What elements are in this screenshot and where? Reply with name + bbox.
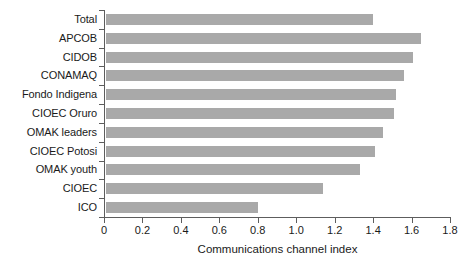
x-axis-tick: [450, 218, 451, 223]
y-axis-tick: [99, 179, 104, 180]
y-axis-tick-label: Total: [0, 10, 97, 29]
bar-row: [104, 104, 450, 123]
x-axis-tick: [335, 218, 336, 223]
x-axis-tick: [142, 218, 143, 223]
y-axis-tick: [99, 10, 104, 11]
x-axis-tick-label: 1.0: [289, 225, 304, 236]
bar-row: [104, 179, 450, 198]
y-axis-tick: [99, 123, 104, 124]
bar-row: [104, 66, 450, 85]
x-axis-tick-label: 0.8: [250, 225, 265, 236]
bar: [106, 127, 383, 138]
y-axis-tick: [99, 142, 104, 143]
y-axis-tick: [99, 85, 104, 86]
y-axis-tick: [99, 48, 104, 49]
x-axis-line: [104, 217, 451, 218]
y-axis-tick-label: ICO: [0, 198, 97, 217]
x-axis-tick: [219, 218, 220, 223]
bar-row: [104, 123, 450, 142]
y-axis-tick-label: CIOEC Potosi: [0, 142, 97, 161]
x-axis-tick-label: 1.4: [365, 225, 380, 236]
x-axis-tick-label: 0: [101, 225, 107, 236]
x-axis-tick: [373, 218, 374, 223]
bar: [106, 52, 413, 63]
bar: [106, 70, 404, 81]
x-axis-tick: [258, 218, 259, 223]
x-axis-tick-label: 1.2: [327, 225, 342, 236]
y-axis-tick-labels: TotalAPCOBCIDOBCONAMAQFondo IndigenaCIOE…: [0, 10, 97, 217]
bar: [106, 146, 375, 157]
x-axis-tick: [296, 218, 297, 223]
y-axis-tick-label: CIOEC: [0, 179, 97, 198]
x-axis-tick: [412, 218, 413, 223]
bar-row: [104, 142, 450, 161]
bar: [106, 164, 360, 175]
bar-row: [104, 10, 450, 29]
bar-row: [104, 85, 450, 104]
plot-area: [104, 10, 450, 217]
x-axis-tick: [181, 218, 182, 223]
x-axis-tick-label: 0.2: [135, 225, 150, 236]
bar: [106, 14, 373, 25]
y-axis-tick-label: CONAMAQ: [0, 66, 97, 85]
y-axis-tick-label: OMAK youth: [0, 161, 97, 180]
bar: [106, 33, 421, 44]
y-axis-tick: [99, 198, 104, 199]
y-axis-tick: [99, 29, 104, 30]
bar: [106, 108, 394, 119]
bar-row: [104, 161, 450, 180]
x-axis-tick-label: 1.6: [404, 225, 419, 236]
y-axis-tick: [99, 66, 104, 67]
x-axis-title: Communications channel index: [104, 244, 451, 256]
y-axis-tick-label: Fondo Indigena: [0, 85, 97, 104]
bar-row: [104, 198, 450, 217]
y-axis-tick: [99, 161, 104, 162]
y-axis-tick-label: OMAK leaders: [0, 123, 97, 142]
x-axis-tick-label: 0.6: [212, 225, 227, 236]
bar-chart: TotalAPCOBCIDOBCONAMAQFondo IndigenaCIOE…: [0, 0, 475, 268]
y-axis-tick-label: APCOB: [0, 29, 97, 48]
bar-row: [104, 29, 450, 48]
bar-row: [104, 48, 450, 67]
x-axis-tick: [104, 218, 105, 223]
bar-rows: [104, 10, 450, 217]
bar: [106, 183, 323, 194]
bar: [106, 202, 258, 213]
x-axis-tick-label: 1.8: [442, 225, 457, 236]
y-axis-tick-label: CIDOB: [0, 48, 97, 67]
y-axis-tick-label: CIOEC Oruro: [0, 104, 97, 123]
bar: [106, 89, 396, 100]
y-axis-tick: [99, 104, 104, 105]
x-axis-tick-label: 0.4: [173, 225, 188, 236]
